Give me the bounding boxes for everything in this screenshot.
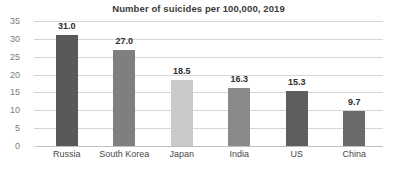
y-axis-tick-label: 35: [0, 17, 20, 26]
bar[interactable]: [171, 80, 193, 146]
bar[interactable]: [56, 35, 78, 146]
gridline: [38, 92, 383, 93]
bar[interactable]: [286, 91, 308, 146]
y-axis-tick-label: 30: [0, 35, 20, 44]
y-axis-tick-mark: [34, 39, 38, 40]
gridline: [38, 57, 383, 58]
plot-area: 35302520151050 31.027.018.516.315.39.7: [38, 21, 383, 146]
bar-value-label: 15.3: [267, 78, 327, 87]
y-axis-tick-label: 0: [0, 142, 20, 151]
y-axis-tick-mark: [34, 57, 38, 58]
y-axis-tick-label: 5: [0, 124, 20, 133]
gridline: [38, 128, 383, 129]
bar[interactable]: [113, 50, 135, 146]
bar-value-label: 18.5: [152, 67, 212, 76]
bar-value-label: 9.7: [324, 98, 384, 107]
y-axis-tick-label: 25: [0, 53, 20, 62]
y-axis-tick-mark: [34, 92, 38, 93]
bar-value-label: 16.3: [209, 75, 269, 84]
y-axis-tick-mark: [34, 128, 38, 129]
bar[interactable]: [343, 111, 365, 146]
y-axis-tick-mark: [34, 110, 38, 111]
x-axis-category-label: China: [314, 150, 394, 159]
y-axis-tick-label: 15: [0, 88, 20, 97]
y-axis-tick-label: 20: [0, 71, 20, 80]
gridline: [38, 39, 383, 40]
y-axis-tick-mark: [34, 75, 38, 76]
chart-title: Number of suicides per 100,000, 2019: [0, 3, 397, 14]
y-axis-tick-label: 10: [0, 106, 20, 115]
gridline: [38, 146, 383, 147]
bar-value-label: 31.0: [37, 22, 97, 31]
bar[interactable]: [228, 88, 250, 146]
bar-value-label: 27.0: [94, 37, 154, 46]
bar-chart: Number of suicides per 100,000, 2019 353…: [0, 0, 397, 177]
gridline: [38, 110, 383, 111]
y-axis-tick-mark: [34, 146, 38, 147]
